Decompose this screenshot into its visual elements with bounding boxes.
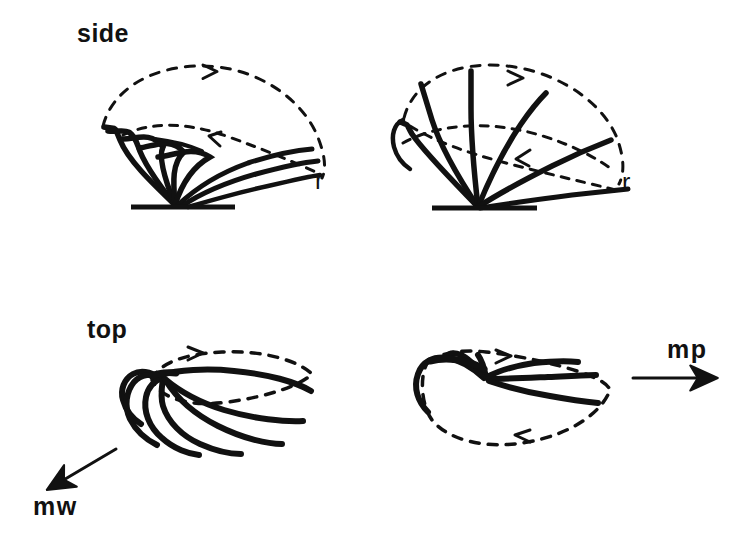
panel-side-left [103,65,325,207]
stroke-trace-6 [489,381,598,403]
dashed-inner-arc-arrowhead [516,150,530,166]
panel-top-left [122,347,312,455]
r-axis-label-left: r [315,168,323,193]
dashed-arrowhead-top [496,350,511,363]
dashed-outer-arc-arrowhead [508,71,523,85]
hub-spine [152,373,176,376]
mw-arrow [50,449,116,488]
dashed-inner-arc-arrowhead [209,132,221,146]
mw-vector-label: mw [33,494,78,519]
side-view-label: side [77,21,129,46]
panel-top-right [416,350,610,445]
stroke-trace-5 [488,375,596,379]
dashed-outer-arc-arrowhead [203,65,217,79]
mp-vector-label: mp [667,337,708,362]
hub-spine [430,359,484,369]
dashed-arrowhead-bottom [515,430,530,442]
r-axis-label-right: r [622,170,630,195]
top-view-label: top [87,317,127,342]
wing-stroke-diagram [0,0,754,538]
stroke-trace-3 [471,71,478,207]
panel-side-right [393,65,628,208]
dashed-lens-arrowhead-top [188,347,203,360]
figure-canvas: side top r r mw mp [0,0,754,538]
